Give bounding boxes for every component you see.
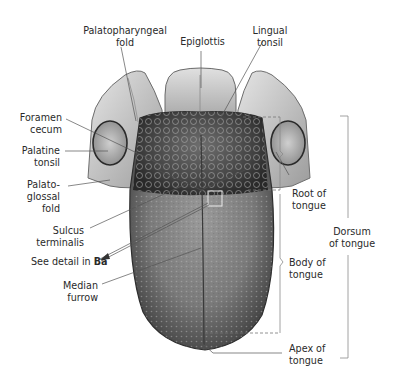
right-palatine-tonsil [271, 121, 305, 165]
label-line: tonsil [250, 37, 290, 49]
label-root-of-tongue: Root of tongue [292, 188, 326, 212]
label-palatine-tonsil: Palatine tonsil [10, 145, 60, 169]
label-line: Body of [289, 257, 326, 269]
label-line: Median [40, 280, 98, 292]
tongue-anatomy-figure: Palatopharyngeal fold Epiglottis Lingual… [0, 0, 394, 384]
label-see-detail: See detail in Ba [31, 256, 108, 268]
label-apex-of-tongue: Apex of tongue [289, 343, 325, 367]
label-line: Epiglottis [175, 36, 230, 48]
epiglottis-shape [165, 68, 236, 118]
label-line: furrow [40, 292, 98, 304]
label-line: fold [10, 203, 60, 215]
label-median-furrow: Median furrow [40, 280, 98, 304]
label-foramen-cecum: Foramen cecum [10, 112, 62, 136]
label-epiglottis: Epiglottis [175, 36, 230, 48]
tongue-shape [130, 112, 274, 350]
label-line: Lingual [250, 25, 290, 37]
label-body-of-tongue: Body of tongue [289, 257, 326, 281]
label-line: Foramen [10, 112, 62, 124]
label-line: tongue [292, 200, 326, 212]
label-line: Palatopharyngeal [80, 25, 170, 37]
label-sulcus-terminalis: Sulcus terminalis [20, 225, 84, 249]
label-line: terminalis [20, 237, 84, 249]
label-line: tongue [289, 355, 325, 367]
label-line: of tongue [320, 238, 384, 250]
label-line: Palato- [10, 179, 60, 191]
label-line: glossal [10, 191, 60, 203]
label-line: Apex of [289, 343, 325, 355]
label-line: Palatine [10, 145, 60, 157]
see-detail-ref: Ba [94, 256, 108, 267]
label-line: Sulcus [20, 225, 84, 237]
label-line: tongue [289, 269, 326, 281]
label-line: Root of [292, 188, 326, 200]
left-palatine-tonsil [93, 121, 127, 165]
label-palatopharyngeal-fold: Palatopharyngeal fold [80, 25, 170, 49]
label-lingual-tonsil: Lingual tonsil [250, 25, 290, 49]
label-line: Dorsum [320, 226, 384, 238]
label-line: tonsil [10, 157, 60, 169]
label-line: fold [80, 37, 170, 49]
label-palatoglossal-fold: Palato- glossal fold [10, 179, 60, 215]
label-dorsum-of-tongue: Dorsum of tongue [320, 226, 384, 250]
see-detail-text: See detail in [31, 256, 94, 267]
label-line: cecum [10, 124, 62, 136]
